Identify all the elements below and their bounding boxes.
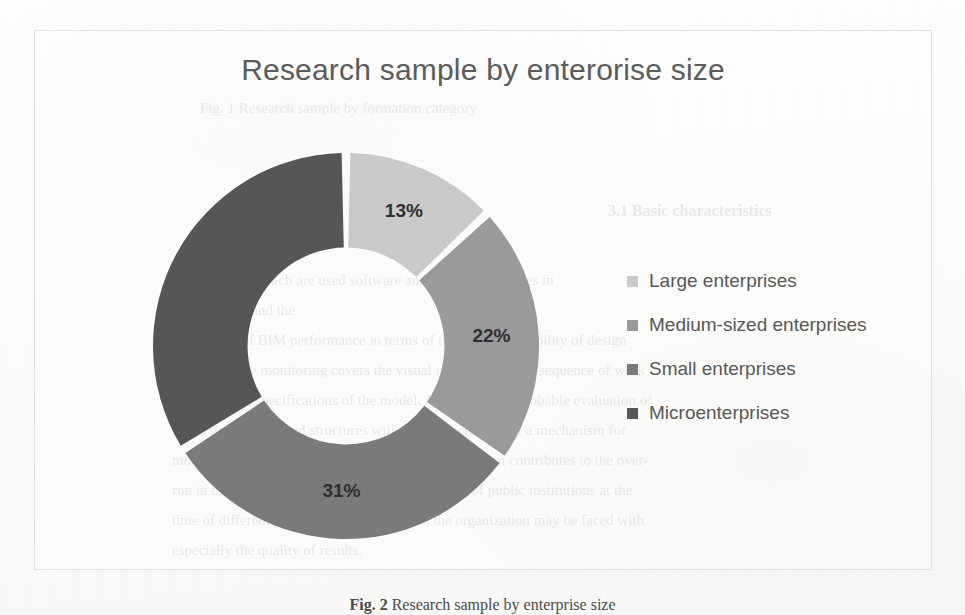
legend-item-label: Microenterprises (649, 402, 789, 424)
legend-item-medium-sized-enterprises[interactable]: Medium-sized enterprises (627, 303, 917, 347)
legend-swatch-icon (627, 364, 638, 375)
figure-caption-text: Research sample by enterprise size (392, 596, 616, 613)
donut-slice-label: 13% (385, 200, 423, 221)
legend-item-microenterprises[interactable]: Microenterprises (627, 391, 917, 435)
donut-chart: 13%22%31% (153, 153, 539, 539)
legend-item-small-enterprises[interactable]: Small enterprises (627, 347, 917, 391)
figure-caption-prefix: Fig. 2 (349, 596, 387, 613)
legend-item-label: Medium-sized enterprises (649, 314, 867, 336)
donut-slice[interactable] (185, 401, 499, 539)
legend-swatch-icon (627, 276, 638, 287)
figure-caption: Fig. 2 Research sample by enterprise siz… (0, 596, 965, 614)
donut-slice-label: 31% (322, 480, 360, 501)
chart-legend: Large enterprises Medium-sized enterpris… (627, 259, 917, 435)
legend-item-label: Large enterprises (649, 270, 797, 292)
donut-chart-svg: 13%22%31% (153, 153, 539, 539)
legend-swatch-icon (627, 320, 638, 331)
donut-slice[interactable] (153, 153, 344, 446)
chart-title: Research sample by enterorise size (35, 53, 931, 87)
legend-item-label: Small enterprises (649, 358, 796, 380)
legend-swatch-icon (627, 408, 638, 419)
chart-frame: Research sample by enterorise size 13%22… (34, 30, 932, 570)
legend-item-large-enterprises[interactable]: Large enterprises (627, 259, 917, 303)
donut-slice-label: 22% (472, 325, 510, 346)
